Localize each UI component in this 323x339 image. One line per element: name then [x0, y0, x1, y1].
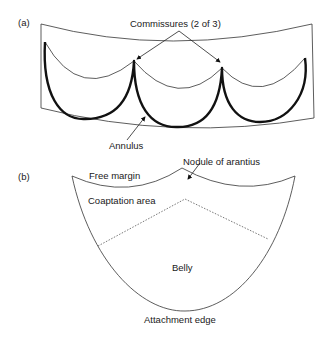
- annulus-arrow: [127, 117, 145, 140]
- nodule-label: Nodule of arantius: [183, 156, 260, 167]
- panel-a: (a) Commissures (2 of 3) Annulus: [18, 17, 314, 151]
- commissure-arrow-right: [179, 31, 220, 62]
- attachment-edge-label: Attachment edge: [144, 314, 216, 325]
- aortic-root-frame: [41, 24, 314, 128]
- panel-b-label: (b): [18, 171, 30, 182]
- panel-b: (b) Free margin Nodule of arantius Coapt…: [18, 156, 295, 325]
- commissure-arrow-left: [137, 31, 179, 59]
- free-margin-label: Free margin: [89, 170, 140, 181]
- commissures-label: Commissures (2 of 3): [130, 18, 221, 29]
- belly-label: Belly: [172, 262, 193, 273]
- coaptation-boundary: [98, 199, 268, 246]
- coaptation-area-label: Coaptation area: [88, 195, 156, 206]
- panel-a-label: (a): [18, 17, 30, 28]
- annulus-curve: [45, 42, 306, 127]
- free-margin-curves: [45, 42, 305, 88]
- annulus-label: Annulus: [109, 140, 144, 151]
- heart-valve-diagram: (a) Commissures (2 of 3) Annulus (b) Fre…: [0, 0, 323, 339]
